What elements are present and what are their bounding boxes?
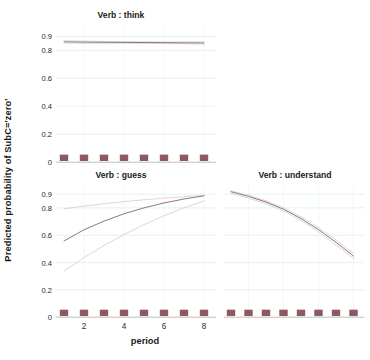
plot-svg — [56, 28, 216, 165]
rug-mark — [279, 310, 287, 316]
rug-mark — [140, 155, 148, 161]
y-tick-label: 0 — [48, 158, 52, 167]
plot-area-think — [56, 28, 216, 165]
rug-mark — [60, 310, 68, 316]
rug-mark — [60, 155, 68, 161]
y-tick-label: 0.6 — [41, 231, 52, 240]
y-tick-label: 0.2 — [41, 285, 52, 294]
y-tick-label: 0.4 — [41, 102, 52, 111]
rug-mark — [200, 155, 208, 161]
rug-mark — [100, 310, 108, 316]
y-tick-label: 0.8 — [41, 203, 52, 212]
panel-understand: Verb : understand — [222, 170, 368, 320]
panel-title-think: Verb : think — [26, 10, 216, 20]
rug-mark — [349, 310, 357, 316]
rug-mark — [80, 310, 88, 316]
chart-figure: Predicted probability of SubC='zero' Ver… — [0, 0, 370, 360]
rug-mark — [200, 310, 208, 316]
series-line-fit — [64, 196, 204, 241]
rug-mark — [180, 310, 188, 316]
panel-think: Verb : think 00.20.40.60.80.9 — [26, 10, 216, 165]
panel-guess: Verb : guess 00.20.40.60.80.9 2468 — [26, 170, 216, 320]
rug-mark — [80, 155, 88, 161]
rug-mark — [160, 310, 168, 316]
rug-mark — [120, 155, 128, 161]
plot-svg — [224, 186, 364, 320]
rug-mark — [297, 310, 305, 316]
x-axis-title: period — [55, 336, 235, 346]
panel-title-guess: Verb : guess — [26, 170, 216, 180]
y-tick-label: 0.9 — [41, 190, 52, 199]
rug-mark — [180, 155, 188, 161]
y-axis-title: Predicted probability of SubC='zero' — [0, 0, 16, 360]
rug-mark — [262, 310, 270, 316]
series-line-fit — [231, 192, 354, 256]
y-axis-ticks-guess: 00.20.40.60.80.9 — [26, 186, 52, 320]
plot-svg — [56, 186, 216, 320]
plot-area-guess — [56, 186, 216, 320]
rug-mark — [140, 310, 148, 316]
series-line-confidence — [64, 195, 204, 209]
rug-mark — [227, 310, 235, 316]
plot-area-understand — [224, 186, 364, 320]
x-tick-label: 4 — [122, 322, 127, 331]
rug-mark — [160, 155, 168, 161]
rug-mark — [314, 310, 322, 316]
y-axis-ticks-think: 00.20.40.60.80.9 — [26, 28, 52, 165]
rug-mark — [332, 310, 340, 316]
x-axis-ticks-guess: 2468 — [56, 322, 216, 336]
y-tick-label: 0.4 — [41, 258, 52, 267]
y-tick-label: 0 — [48, 313, 52, 322]
x-tick-label: 8 — [202, 322, 207, 331]
y-tick-label: 0.9 — [41, 32, 52, 41]
y-tick-label: 0.2 — [41, 130, 52, 139]
series-line-confidence — [64, 201, 204, 271]
series-line-confidence — [231, 193, 354, 258]
rug-mark — [244, 310, 252, 316]
x-tick-label: 6 — [162, 322, 167, 331]
panel-title-understand: Verb : understand — [222, 170, 368, 180]
y-tick-label: 0.6 — [41, 74, 52, 83]
y-tick-label: 0.8 — [41, 46, 52, 55]
rug-mark — [100, 155, 108, 161]
x-tick-label: 2 — [82, 322, 87, 331]
rug-mark — [120, 310, 128, 316]
